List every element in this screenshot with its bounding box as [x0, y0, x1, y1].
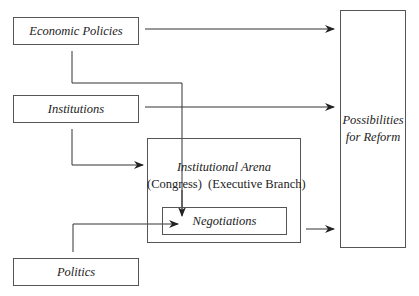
economic-policies-label: Economic Policies: [29, 24, 122, 39]
institutional-arena-title: Institutional Arena: [147, 160, 301, 175]
negotiations-label: Negotiations: [193, 214, 257, 229]
diagram-canvas: Economic Policies Institutions Politics …: [0, 0, 419, 296]
arrow-institutions-to-arena: [72, 129, 143, 165]
possibilities-label-line2: for Reform: [346, 129, 401, 146]
arena-branches: (Congress) (Executive Branch): [147, 177, 301, 192]
politics-box: Politics: [13, 258, 139, 286]
negotiations-box: Negotiations: [162, 207, 287, 235]
economic-policies-box: Economic Policies: [13, 17, 139, 45]
possibilities-for-reform-box: Possibilities for Reform: [340, 10, 406, 248]
possibilities-label-line1: Possibilities: [342, 112, 403, 129]
institutions-label: Institutions: [48, 102, 104, 117]
congress-label: (Congress): [147, 177, 202, 191]
politics-label: Politics: [57, 265, 95, 280]
institutions-box: Institutions: [13, 95, 139, 123]
executive-branch-label: (Executive Branch): [208, 177, 306, 191]
